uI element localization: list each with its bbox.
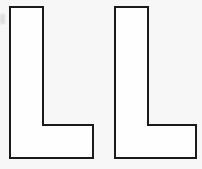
image-canvas [0, 0, 202, 169]
shapes-svg [0, 0, 202, 169]
